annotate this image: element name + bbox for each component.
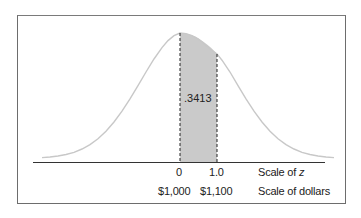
z-tick-1: 1.0 bbox=[209, 166, 224, 178]
shaded-area-label: .3413 bbox=[184, 92, 212, 104]
z-scale-label: Scale of z bbox=[258, 166, 304, 178]
dollar-scale-label: Scale of dollars bbox=[258, 185, 330, 197]
z-tick-0: 0 bbox=[176, 166, 182, 178]
dollar-tick-1: $1,100 bbox=[200, 185, 232, 197]
z-variable: z bbox=[299, 166, 304, 178]
z-scale-label-prefix: Scale of bbox=[258, 166, 299, 178]
dollar-tick-0: $1,000 bbox=[158, 185, 190, 197]
